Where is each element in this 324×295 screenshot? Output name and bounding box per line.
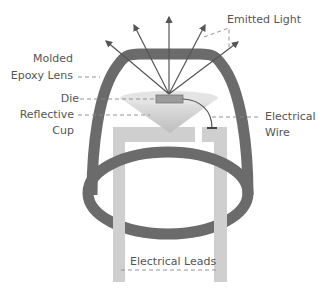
label-emitted-light: Emitted Light — [227, 13, 301, 27]
label-molded-line2: Epoxy Lens — [0, 69, 73, 83]
die — [156, 95, 183, 103]
label-wire-line2: Wire — [265, 126, 290, 140]
label-reflective-line1: Reflective — [0, 108, 74, 122]
label-reflective-line2: Cup — [0, 124, 74, 138]
label-electrical-leads: Electrical Leads — [130, 255, 216, 269]
label-die: Die — [0, 92, 79, 106]
label-wire-line1: Electrical — [265, 110, 316, 124]
label-molded-line1: Molded — [0, 52, 73, 66]
led-diagram — [0, 0, 324, 295]
